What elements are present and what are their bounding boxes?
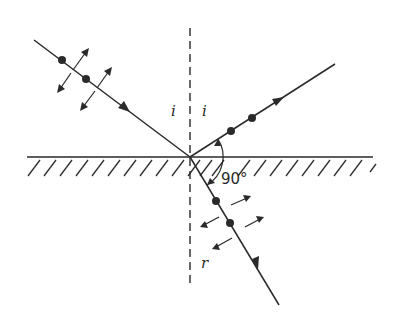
- incident-arrowhead-icon: [118, 101, 130, 112]
- label-incident-angle-left: i: [171, 104, 176, 119]
- reflected-arrowhead-icon: [272, 97, 284, 106]
- incident-ray: [34, 40, 190, 157]
- interface-surface: [27, 157, 376, 176]
- reflected-ray: [190, 64, 335, 157]
- brewster-angle-diagram: i i r 90°: [0, 0, 395, 324]
- hatching: [28, 160, 376, 176]
- label-incident-angle-right: i: [202, 104, 207, 119]
- diagram-svg: [0, 0, 395, 324]
- label-refraction-angle: r: [201, 256, 208, 271]
- label-right-angle: 90°: [221, 172, 248, 187]
